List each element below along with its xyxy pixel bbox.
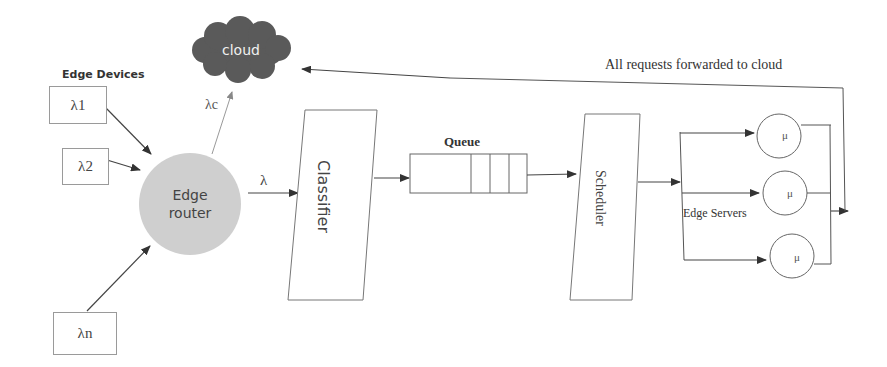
queue-label: Queue [444,134,480,150]
arrow-ln-to-router [87,246,150,311]
classifier-label: Classifier [314,160,333,233]
arrow-l1-to-router [106,108,151,154]
edge-router-line2: router [169,204,212,222]
edge-router-line1: Edge [172,186,207,204]
arrow-queue-to-scheduler [527,174,576,175]
edge-router: Edge router [139,153,241,255]
server-3-rate: μ [794,251,800,263]
server-1-rate: μ [782,129,788,141]
edge-server-3 [770,234,814,278]
edge-servers-label: Edge Servers [683,206,747,221]
edge-devices-title: Edge Devices [62,68,145,81]
arrow-forward-to-cloud [302,69,450,78]
edge-server-2 [763,171,807,215]
cloud-arrival-label: λc [205,97,218,113]
cloud-label: cloud [222,42,260,58]
forward-to-cloud-label: All requests forwarded to cloud [605,57,782,73]
edge-device-2-label: λ2 [78,158,93,175]
edge-device-1: λ1 [49,86,107,124]
edge-device-1-label: λ1 [71,97,86,114]
scheduler-label: Scheduler [592,170,608,226]
router-output-label: λ [260,172,267,189]
edge-server-1 [757,114,801,158]
edge-device-2: λ2 [62,148,109,185]
edge-device-n-label: λn [78,325,93,342]
arrow-l2-to-router [107,160,140,170]
edge-device-n: λn [53,312,117,355]
server-2-rate: μ [787,187,793,199]
diagram-canvas [0,0,887,367]
